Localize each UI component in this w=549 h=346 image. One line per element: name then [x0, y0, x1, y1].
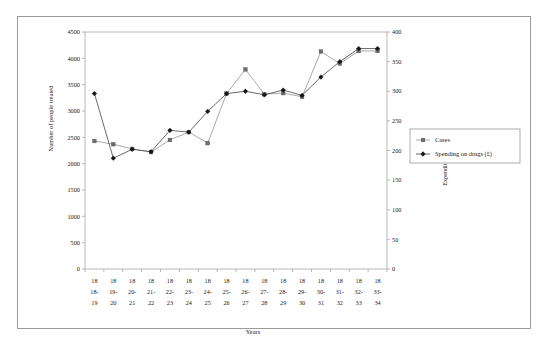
x-axis-tick-label: 34	[374, 299, 380, 306]
x-axis-tick-label: 28	[261, 299, 267, 306]
x-axis-tick-label: 18	[337, 277, 343, 284]
line-chart: 0500100015002000250030003500400045000501…	[18, 17, 532, 330]
x-axis-tick-label: 18	[223, 277, 229, 284]
x-axis-tick-label: 21	[129, 299, 135, 306]
x-axis-tick-label: 32-	[355, 288, 363, 295]
x-axis-tick-label: 25-	[222, 288, 230, 295]
y-axis-right-tick-label: 200	[392, 147, 401, 154]
y-axis-left-tick-label: 4000	[67, 55, 80, 62]
x-axis-tick-label: 18	[356, 277, 362, 284]
x-axis-tick-label: 24-	[204, 288, 212, 295]
y-axis-right-tick-label: 300	[392, 87, 401, 94]
x-axis-tick-label: 18	[205, 277, 211, 284]
x-axis-tick-label: 32	[337, 299, 343, 306]
x-axis-tick-label: 31	[318, 299, 324, 306]
x-axis-tick-label: 22	[148, 299, 154, 306]
x-axis-tick-label: 18	[242, 277, 248, 284]
y-axis-right-tick-label: 0	[392, 265, 395, 272]
x-axis-tick-label: 30	[299, 299, 305, 306]
legend-label: Spending on drugs (£)	[435, 150, 492, 158]
y-axis-right-tick-label: 400	[392, 28, 401, 35]
y-axis-left-tick-label: 0	[77, 265, 80, 272]
x-axis-tick-label: 18-	[90, 288, 98, 295]
x-axis-tick-label: 18	[318, 277, 324, 284]
y-axis-left-tick-label: 4500	[67, 28, 80, 35]
x-axis-tick-label: 20	[110, 299, 116, 306]
x-axis-tick-label: 26-	[241, 288, 249, 295]
x-axis-tick-label: 33	[356, 299, 362, 306]
x-axis-tick-label: 31-	[336, 288, 344, 295]
x-axis-tick-label: 19-	[109, 288, 117, 295]
legend-label: Cases	[435, 136, 450, 143]
y-axis-right-tick-label: 150	[392, 176, 401, 183]
x-axis-tick-label: 27	[242, 299, 248, 306]
legend-group: CasesSpending on drugs (£)	[410, 129, 520, 163]
x-axis-tick-label: 29-	[298, 288, 306, 295]
series-group	[92, 46, 380, 160]
x-axis-tick-label: 18	[129, 277, 135, 284]
x-axis-tick-label: 18	[280, 277, 286, 284]
axes-group: 0500100015002000250030003500400045000501…	[67, 28, 401, 306]
x-axis-tick-label: 18	[186, 277, 192, 284]
x-axis-tick-label: 26	[223, 299, 229, 306]
x-axis-tick-label: 27-	[260, 288, 268, 295]
x-axis-tick-label: 18	[167, 277, 173, 284]
y-axis-right-tick-label: 100	[392, 206, 401, 213]
legend-box	[410, 129, 520, 163]
x-axis-tick-label: 18	[91, 277, 97, 284]
y-axis-right-tick-label: 50	[392, 236, 398, 243]
x-axis-tick-label: 23	[167, 299, 173, 306]
x-axis-tick-label: 18	[261, 277, 267, 284]
y-axis-right-tick-label: 350	[392, 58, 401, 65]
y-axis-left-tick-label: 3500	[67, 81, 80, 88]
series-spending	[92, 46, 380, 160]
x-axis-tick-label: 23-	[185, 288, 193, 295]
y-axis-left-tick-label: 2500	[67, 134, 80, 141]
x-axis-tick-label: 30-	[317, 288, 325, 295]
x-axis-tick-label: 22-	[166, 288, 174, 295]
y-axis-left-tick-label: 2000	[67, 160, 80, 167]
x-axis-tick-label: 18	[110, 277, 116, 284]
x-axis-tick-label: 25	[205, 299, 211, 306]
figure-container: Number of people treated Expenditure on …	[0, 0, 549, 346]
x-axis-tick-label: 33-	[373, 288, 381, 295]
x-axis-tick-label: 19	[91, 299, 97, 306]
x-axis-tick-label: 29	[280, 299, 286, 306]
y-axis-left-tick-label: 1000	[67, 213, 80, 220]
x-axis-tick-label: 18	[148, 277, 154, 284]
y-axis-right-tick-label: 250	[392, 117, 401, 124]
x-axis-tick-label: 24	[186, 299, 192, 306]
x-axis-tick-label: 28-	[279, 288, 287, 295]
x-axis-tick-label: 21-	[147, 288, 155, 295]
y-axis-left-tick-label: 500	[71, 239, 80, 246]
x-axis-tick-label: 20-	[128, 288, 136, 295]
x-axis-tick-label: 18	[299, 277, 305, 284]
y-axis-left-tick-label: 1500	[67, 186, 80, 193]
y-axis-left-tick-label: 3000	[67, 107, 80, 114]
figure-frame: Number of people treated Expenditure on …	[17, 16, 531, 329]
x-axis-tick-label: 18	[374, 277, 380, 284]
